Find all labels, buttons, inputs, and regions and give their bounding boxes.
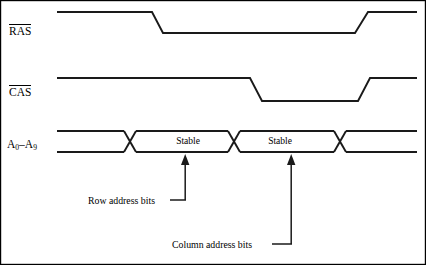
signal-label-address-bus: A0–A9 [7,139,37,151]
address-label-sub-end: 9 [33,143,37,152]
address-label-prefix-a9: A [25,138,33,150]
annotation-column-address-bits: Column address bits [172,240,252,250]
address-label-sub-start: 0 [15,143,19,152]
ras-overline-text: RAS [9,24,31,38]
figure-border [1,1,426,265]
bus-segment-label-stable-column: Stable [252,137,308,147]
timing-diagram-canvas [0,0,426,265]
bus-segment-label-stable-row: Stable [160,137,216,147]
signal-label-cas: CAS [9,85,31,99]
annotation-row-address-bits: Row address bits [88,196,155,206]
timing-diagram-figure: RAS CAS A0–A9 Stable Stable Row address … [0,0,426,265]
cas-overline-text: CAS [9,85,31,99]
signal-label-ras: RAS [9,24,31,38]
